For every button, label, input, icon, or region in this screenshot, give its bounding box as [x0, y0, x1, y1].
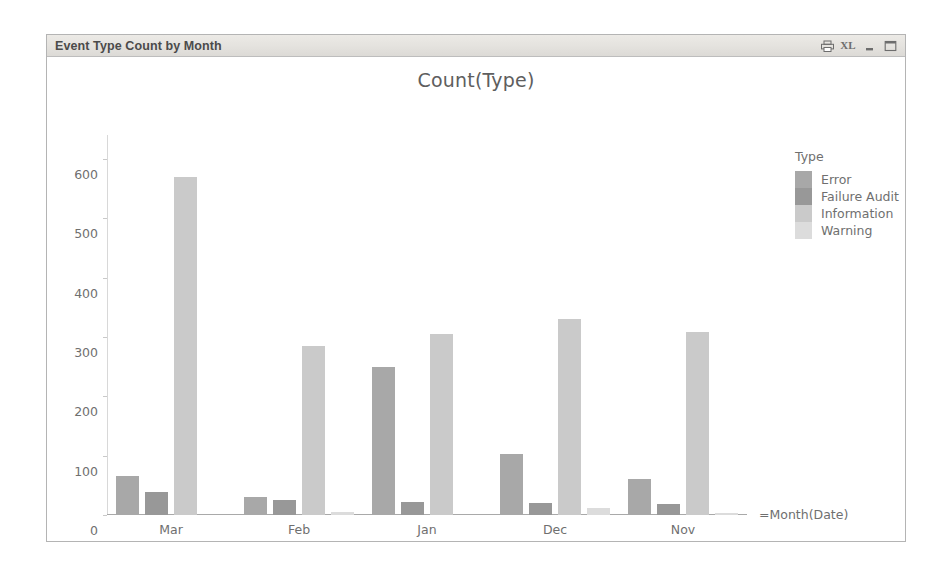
- maximize-icon[interactable]: [883, 39, 897, 53]
- bar-group: Jan: [363, 135, 491, 515]
- bar[interactable]: [715, 513, 738, 515]
- plot-area: 0100200300400500600 MarFebJanDecNov: [107, 135, 747, 515]
- legend-label[interactable]: Error: [821, 171, 899, 188]
- legend-label[interactable]: Failure Audit: [821, 188, 899, 205]
- chart-title: Count(Type): [47, 69, 905, 91]
- bar-group: Nov: [619, 135, 747, 515]
- bar[interactable]: [529, 503, 552, 515]
- bar[interactable]: [331, 512, 354, 515]
- titlebar-buttons: XL: [820, 39, 897, 53]
- y-axis-tick-label: 600: [74, 166, 98, 181]
- y-axis-tick-label: 0: [90, 523, 98, 538]
- x-axis-tick-label: Jan: [417, 522, 436, 537]
- bar[interactable]: [273, 500, 296, 515]
- bar[interactable]: [145, 492, 168, 515]
- legend-swatch[interactable]: [795, 222, 812, 239]
- legend-rows: ErrorFailure AuditInformationWarning: [795, 171, 905, 239]
- bar[interactable]: [302, 346, 325, 515]
- chart-window: Event Type Count by Month XL: [46, 34, 906, 542]
- bar[interactable]: [372, 367, 395, 515]
- bar[interactable]: [116, 476, 139, 515]
- x-axis-tick-label: Feb: [288, 522, 310, 537]
- bar[interactable]: [430, 334, 453, 515]
- window-title: Event Type Count by Month: [55, 39, 222, 53]
- chart-legend: Type ErrorFailure AuditInformationWarnin…: [795, 149, 905, 239]
- legend-swatch[interactable]: [795, 171, 812, 188]
- bar[interactable]: [500, 454, 523, 515]
- bar[interactable]: [628, 479, 651, 515]
- x-axis-tick-label: Dec: [543, 522, 567, 537]
- legend-swatch[interactable]: [795, 205, 812, 222]
- legend-labels: ErrorFailure AuditInformationWarning: [821, 171, 899, 239]
- bar[interactable]: [558, 319, 581, 515]
- y-axis-tick-label: 300: [74, 344, 98, 359]
- x-axis-tick-label: Mar: [159, 522, 183, 537]
- y-axis-tick-label: 200: [74, 404, 98, 419]
- minimize-icon[interactable]: [862, 39, 876, 53]
- legend-title: Type: [795, 149, 905, 164]
- bar[interactable]: [244, 497, 267, 515]
- legend-swatches: [795, 171, 812, 239]
- legend-swatch[interactable]: [795, 188, 812, 205]
- legend-label[interactable]: Warning: [821, 222, 899, 239]
- bar[interactable]: [686, 332, 709, 515]
- bar-groups: MarFebJanDecNov: [107, 135, 747, 515]
- legend-label[interactable]: Information: [821, 205, 899, 222]
- window-titlebar: Event Type Count by Month XL: [47, 35, 905, 57]
- bar-group: Feb: [235, 135, 363, 515]
- export-excel-icon[interactable]: XL: [841, 39, 855, 53]
- bar[interactable]: [174, 177, 197, 515]
- y-axis-tick-mark: [103, 515, 107, 516]
- bar[interactable]: [401, 502, 424, 515]
- y-axis-tick-label: 500: [74, 226, 98, 241]
- x-axis-label: =Month(Date): [759, 507, 848, 522]
- chart-panel: Count(Type) 0100200300400500600 MarFebJa…: [47, 57, 905, 541]
- bar-group: Mar: [107, 135, 235, 515]
- y-axis-tick-label: 400: [74, 285, 98, 300]
- x-axis-tick-label: Nov: [671, 522, 695, 537]
- print-icon[interactable]: [820, 39, 834, 53]
- bar-group: Dec: [491, 135, 619, 515]
- bar[interactable]: [587, 508, 610, 515]
- screen: Event Type Count by Month XL: [0, 0, 951, 573]
- bar[interactable]: [657, 504, 680, 515]
- y-axis-tick-label: 100: [74, 463, 98, 478]
